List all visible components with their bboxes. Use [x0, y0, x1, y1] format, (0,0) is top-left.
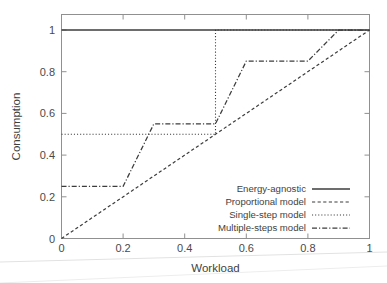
x-tick-label: 0.4: [177, 242, 192, 254]
y-axis-title: Consumption: [10, 93, 22, 161]
y-axis-tickmarks-right: [365, 72, 370, 197]
x-axis-tickmarks-top: [123, 15, 308, 20]
legend-label-multiple-steps-model: Multiple-steps model: [218, 222, 306, 233]
y-tick-label: 0: [49, 233, 55, 245]
legend-label-single-step-model: Single-step model: [229, 209, 306, 220]
x-axis-title: Workload: [191, 262, 239, 274]
y-tick-label: 0.8: [40, 66, 55, 78]
y-tick-label: 1: [49, 24, 55, 36]
y-tick-label: 0.2: [40, 191, 55, 203]
chart-canvas: 0 0.2 0.4 0.6 0.8 1 0 0.2 0.4 0.6 0.8 1 …: [0, 0, 387, 283]
x-tick-label: 0.6: [239, 242, 254, 254]
x-tick-label: 0: [58, 242, 64, 254]
chart-figure: 0 0.2 0.4 0.6 0.8 1 0 0.2 0.4 0.6 0.8 1 …: [0, 0, 387, 283]
x-tick-label: 0.2: [115, 242, 130, 254]
series-single-step-model: [62, 30, 370, 134]
x-axis-labels: 0 0.2 0.4 0.6 0.8 1: [58, 242, 372, 254]
y-axis-labels: 0 0.2 0.4 0.6 0.8 1: [40, 24, 55, 245]
x-tick-label: 1: [366, 242, 372, 254]
legend-label-energy-agnostic: Energy-agnostic: [237, 183, 307, 194]
y-tick-label: 0.6: [40, 107, 55, 119]
x-tick-label: 0.8: [300, 242, 315, 254]
legend-label-proportional-model: Proportional model: [225, 196, 306, 207]
chart-legend: Energy-agnostic Proportional model Singl…: [218, 183, 350, 233]
y-tick-label: 0.4: [40, 149, 55, 161]
x-axis-tickmarks: [62, 234, 370, 239]
